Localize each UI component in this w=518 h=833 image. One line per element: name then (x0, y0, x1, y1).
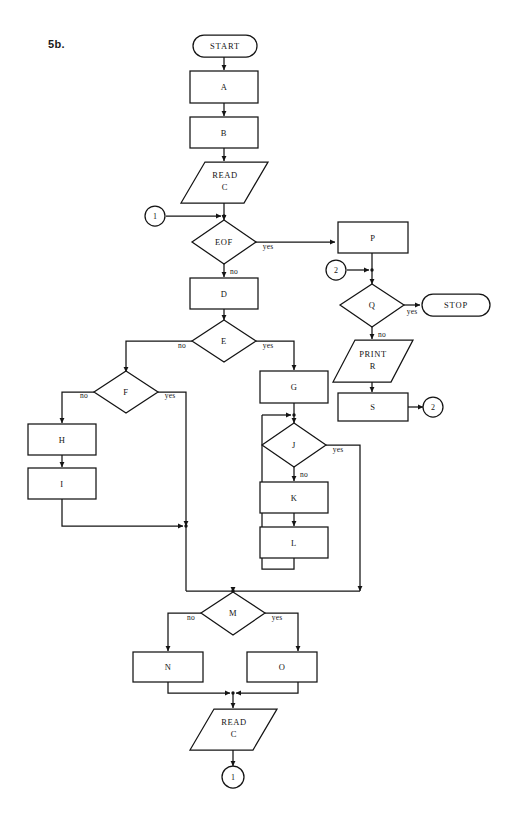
node-eof: EOF (192, 220, 256, 264)
node-p-label: P (370, 233, 375, 243)
node-s-label: S (370, 402, 375, 412)
junction-left-merge (184, 524, 187, 527)
edge-label-m-no: no (187, 613, 195, 622)
node-j-label: J (292, 440, 296, 450)
flowchart-canvas: START A B READ C 1 EOF yes no (0, 0, 518, 833)
edge-i-to-join (62, 499, 183, 526)
node-k: K (260, 482, 328, 513)
node-h-label: H (59, 435, 66, 445)
node-d-label: D (221, 289, 228, 299)
node-a-label: A (221, 82, 228, 92)
junction-q-in (370, 268, 373, 271)
node-b-label: B (221, 128, 227, 138)
node-read-c-bottom: READ C (190, 709, 277, 750)
node-connector-1-top: 1 (145, 206, 165, 226)
edge-o-to-bottomjoin (236, 682, 298, 693)
node-read-c-top-line2: C (222, 182, 228, 192)
node-j: J (262, 423, 326, 467)
junction-j-loop (292, 413, 295, 416)
edge-f-yes-to-join (158, 392, 186, 526)
node-print-r-line2: R (370, 361, 376, 371)
node-connector-2-right-label: 2 (431, 403, 435, 412)
node-print-r-line1: PRINT (359, 349, 387, 359)
node-read-c-bottom-line1: READ (221, 717, 247, 727)
node-l: L (260, 527, 328, 558)
node-g: G (260, 371, 328, 403)
node-n-label: N (165, 662, 172, 672)
node-o-label: O (279, 662, 286, 672)
node-i: I (28, 468, 96, 499)
junction-bus-m (231, 589, 234, 592)
node-connector-2-left-label: 2 (334, 266, 338, 275)
node-print-r: PRINT R (333, 340, 413, 382)
node-eof-label: EOF (215, 237, 233, 247)
node-n: N (133, 652, 203, 682)
node-k-label: K (291, 493, 298, 503)
edge-label-e-no: no (178, 341, 186, 350)
node-e: E (192, 320, 256, 362)
edge-label-j-no: no (300, 470, 308, 479)
node-q-label: Q (369, 300, 376, 310)
edge-label-m-yes: yes (272, 613, 283, 622)
edge-f-no-to-h (62, 392, 94, 423)
node-read-c-bottom-line2: C (231, 729, 237, 739)
node-start-label: START (210, 41, 240, 51)
node-connector-2-right: 2 (423, 397, 443, 417)
node-p: P (338, 222, 408, 253)
edge-m-no-to-n (168, 613, 201, 651)
node-a: A (190, 71, 258, 103)
node-f: F (94, 371, 158, 413)
node-m: M (201, 592, 265, 635)
edge-label-f-no: no (80, 391, 88, 400)
node-connector-1-top-label: 1 (153, 212, 157, 221)
node-i-label: I (60, 479, 63, 489)
node-m-label: M (229, 608, 237, 618)
junction-bottom-merge (231, 691, 234, 694)
edge-n-to-bottomjoin (168, 682, 230, 693)
node-read-c-top-line1: READ (212, 170, 238, 180)
figure-label: 5b. (48, 38, 65, 50)
node-e-label: E (221, 336, 227, 346)
node-connector-1-bottom-label: 1 (231, 773, 235, 782)
node-stop: STOP (422, 294, 490, 316)
node-connector-2-left: 2 (326, 260, 346, 280)
edge-label-eof-no: no (230, 267, 238, 276)
node-o: O (247, 652, 317, 682)
node-stop-label: STOP (444, 300, 468, 310)
node-f-label: F (123, 387, 128, 397)
flowchart-figure: 5b. (0, 0, 518, 833)
node-l-label: L (291, 538, 297, 548)
junction-eof-in (222, 214, 225, 217)
node-connector-1-bottom: 1 (222, 766, 244, 788)
edge-e-yes-to-g (256, 341, 294, 370)
node-read-c-top: READ C (181, 162, 268, 203)
node-g-label: G (291, 382, 298, 392)
node-h: H (28, 424, 96, 455)
edge-j-yes-to-bus (326, 445, 360, 591)
node-b: B (190, 117, 258, 148)
node-start: START (193, 35, 257, 57)
edge-label-q-no: no (378, 330, 386, 339)
edge-label-q-yes: yes (407, 307, 418, 316)
edge-label-j-yes: yes (333, 445, 344, 454)
edge-label-eof-yes: yes (263, 242, 274, 251)
edge-label-e-yes: yes (263, 341, 274, 350)
node-s: S (338, 393, 408, 421)
edge-label-f-yes: yes (165, 391, 176, 400)
node-q: Q (340, 284, 404, 327)
node-d: D (190, 278, 258, 309)
